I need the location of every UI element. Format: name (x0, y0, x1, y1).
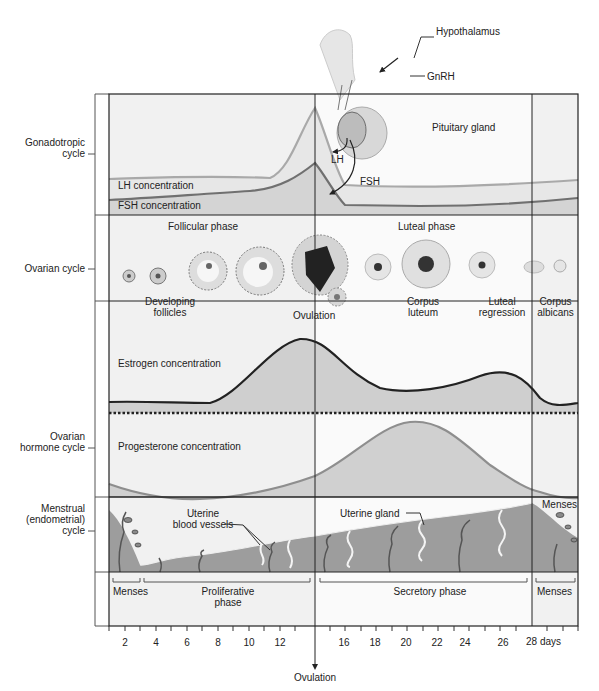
label-ovarian-cycle: Ovarian cycle (2, 263, 85, 274)
corpus-albicans-label: Corpus albicans (533, 296, 578, 318)
menses-phase-label-1: Menses (113, 586, 148, 597)
secretory-phase-label: Secretory phase (380, 586, 480, 597)
tick-label: 26 (493, 637, 513, 648)
developing-follicles-label: Developing follicles (130, 296, 210, 318)
gnrh-label: GnRH (427, 71, 455, 82)
fsh-arrow-label: FSH (360, 176, 380, 187)
progesterone-concentration-label: Progesterone concentration (118, 441, 241, 452)
tick-label-days: 28 days (526, 636, 561, 647)
proliferative-phase-label: Proliferative phase (188, 586, 268, 608)
tick-label: 6 (177, 637, 197, 648)
ovulation-axis-label: Ovulation (285, 672, 345, 683)
label-menstrual-cycle: Menstrual (endometrial) cycle (2, 503, 85, 536)
luteal-regression-label: Luteal regression (476, 296, 528, 318)
pituitary-gland-label: Pituitary gland (432, 122, 495, 133)
cycle-diagram (0, 0, 599, 691)
tick-label: 2 (115, 637, 135, 648)
lh-concentration-label: LH concentration (118, 180, 194, 191)
tick-label: 22 (427, 637, 447, 648)
menses-phase-label-2: Menses (537, 586, 572, 597)
tick-label: 10 (239, 637, 259, 648)
hypothalamus-label: Hypothalamus (436, 26, 500, 37)
corpus-luteum-label: Corpus luteum (393, 296, 453, 318)
follicular-phase-label: Follicular phase (168, 221, 238, 232)
tick-label: 16 (334, 637, 354, 648)
estrogen-concentration-label: Estrogen concentration (118, 358, 221, 369)
label-gonadotropic-cycle: Gonadotropic cycle (2, 137, 85, 159)
fsh-concentration-label: FSH concentration (118, 200, 201, 211)
tick-label: 4 (146, 637, 166, 648)
tick-label: 20 (396, 637, 416, 648)
uterine-gland-label: Uterine gland (340, 508, 399, 519)
lh-arrow-label: LH (331, 154, 344, 165)
label-ovarian-hormone-cycle: Ovarian hormone cycle (2, 431, 85, 453)
tick-label: 8 (208, 637, 228, 648)
ovulation-stage-label: Ovulation (293, 310, 335, 321)
menses-top-label: Menses (542, 499, 577, 510)
tick-label: 18 (365, 637, 385, 648)
uterine-blood-vessels-label: Uterine blood vessels (158, 508, 248, 530)
tick-label: 12 (270, 637, 290, 648)
luteal-phase-label: Luteal phase (398, 221, 455, 232)
tick-label: 24 (455, 637, 475, 648)
